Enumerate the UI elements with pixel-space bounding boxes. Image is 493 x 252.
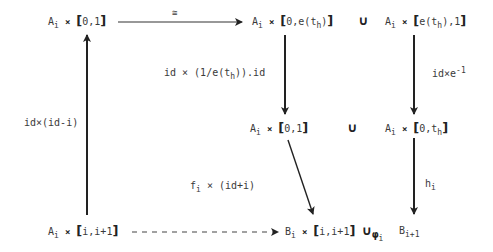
node-mid-mid: Ai × [0,1] <box>250 122 308 135</box>
label-top-mid-down: id × (1/e(th)).id <box>164 67 265 79</box>
node-bottom-right: Bi+1 <box>399 225 419 237</box>
node-top-right: Ai × [e(th),1] <box>385 15 466 28</box>
node-top-left: Ai × [0,1] <box>48 15 106 28</box>
label-mid-diagonal: fi × (id+i) <box>190 180 255 192</box>
node-bottom-left: Ai × [i,i+1] <box>48 225 118 238</box>
node-bottom-mid: Bi × [i,i+1] ∪φi <box>285 225 383 239</box>
label-left-up: id×(id-i) <box>24 117 78 129</box>
label-top-right-down: id×e-1 <box>432 68 466 80</box>
arrow-mid-diagonal <box>288 140 313 214</box>
union-symbol-top: ∪ <box>358 13 369 28</box>
label-top-horizontal: ≅ <box>172 7 177 19</box>
label-mid-right-down: hi <box>425 178 436 190</box>
node-mid-right: Ai × [0,th] <box>385 122 448 135</box>
node-top-mid: Ai × [0,e(th)] <box>252 15 333 28</box>
union-symbol-mid: ∪ <box>347 120 358 135</box>
